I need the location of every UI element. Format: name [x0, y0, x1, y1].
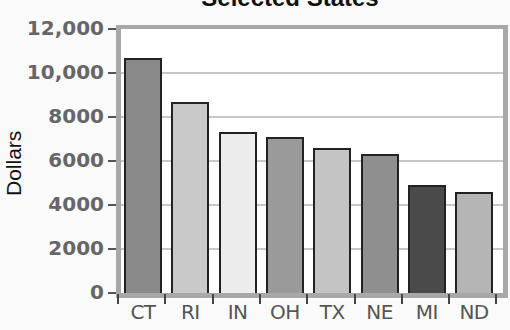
y-tick-mark	[108, 248, 116, 250]
bar-tx	[313, 148, 351, 293]
x-tick-label: OH	[261, 300, 308, 324]
y-tick-label: 0	[0, 282, 104, 302]
x-tick-mark	[401, 294, 403, 304]
bar-in	[219, 132, 257, 293]
x-tick-mark	[259, 294, 261, 304]
x-tick-label: TX	[309, 300, 356, 324]
y-tick-mark	[108, 292, 116, 294]
bar-ne	[361, 154, 399, 293]
x-tick-mark	[354, 294, 356, 304]
x-tick-mark	[306, 294, 308, 304]
bar-ct	[124, 58, 162, 293]
x-tick-mark	[495, 294, 497, 304]
bar-mi	[408, 185, 446, 293]
x-tick-mark	[164, 294, 166, 304]
y-tick-label: 8000	[0, 106, 104, 126]
y-tick-label: 4000	[0, 194, 104, 214]
bar-nd	[455, 192, 493, 293]
plot-area	[116, 25, 508, 298]
x-tick-mark	[117, 294, 119, 304]
y-tick-mark	[108, 28, 116, 30]
x-tick-mark	[448, 294, 450, 304]
x-tick-mark	[212, 294, 214, 304]
x-tick-label: IN	[214, 300, 261, 324]
x-tick-label: NE	[356, 300, 403, 324]
y-tick-mark	[108, 116, 116, 118]
y-tick-label: 6000	[0, 150, 104, 170]
y-tick-mark	[108, 72, 116, 74]
y-tick-label: 12,000	[0, 18, 104, 38]
x-tick-label: RI	[167, 300, 214, 324]
x-tick-label: MI	[403, 300, 450, 324]
gridline	[121, 72, 503, 74]
bar-ri	[171, 102, 209, 293]
y-tick-label: 2000	[0, 238, 104, 258]
x-tick-label: ND	[451, 300, 498, 324]
y-tick-mark	[108, 204, 116, 206]
chart-title: Selected States	[0, 0, 510, 12]
y-tick-label: 10,000	[0, 62, 104, 82]
bar-oh	[266, 137, 304, 293]
y-tick-mark	[108, 160, 116, 162]
x-tick-label: CT	[120, 300, 167, 324]
